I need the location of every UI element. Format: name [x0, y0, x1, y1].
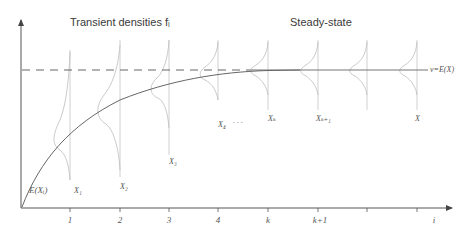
- x-tick-label-k: k: [266, 215, 270, 225]
- mean-line-label: v=E(X): [430, 65, 454, 74]
- expectation-curve: [22, 70, 300, 207]
- x-axis-label: i: [433, 215, 436, 225]
- variable-label-x: X: [415, 114, 420, 123]
- variable-label-x1: X₁: [74, 186, 82, 195]
- x-tick-label-4: 4: [216, 215, 221, 225]
- variable-label-x3: X₃: [169, 157, 177, 166]
- ellipsis: . . .: [233, 116, 243, 125]
- x-axis-ticks: [70, 208, 417, 212]
- variable-label-x4: X₄: [218, 120, 226, 129]
- variable-label-xk1: Xₖ₊₁: [316, 114, 331, 123]
- transient-densities-title: Transient densities fᵢ: [70, 16, 170, 28]
- distribution-verticals: [70, 40, 417, 180]
- variable-label-x2: X₂: [120, 182, 128, 191]
- density-curves: [54, 40, 417, 180]
- x-tick-label-3: 3: [167, 215, 172, 225]
- x-tick-label-1: 1: [68, 215, 73, 225]
- steady-state-title: Steady-state: [290, 16, 352, 28]
- x-tick-label-k1: k+1: [313, 215, 328, 225]
- variable-label-xk: Xₖ: [268, 114, 276, 123]
- x-tick-label-2: 2: [118, 215, 123, 225]
- expectation-label: E(Xᵢ): [29, 185, 47, 195]
